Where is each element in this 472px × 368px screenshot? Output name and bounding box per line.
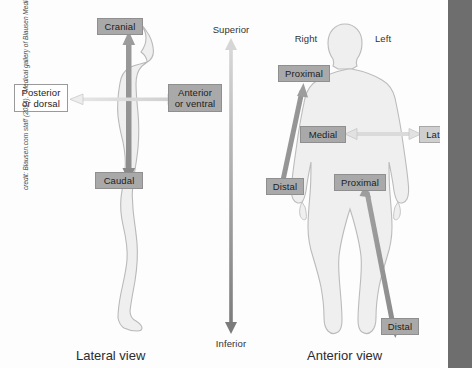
credit-text: credit: Blausen.com staff (2014). "Medic… [22,42,30,190]
anatomy-artwork [0,0,472,368]
posterior-anterior-arrow [70,94,181,105]
medial-lateral-arrow [345,129,421,140]
label-superior: Superior [204,22,258,37]
leg-proximal-distal-arrow [360,184,401,338]
label-right-side: Right [289,31,323,46]
caption-lateral-view: Lateral view [76,348,145,363]
scroll-rail[interactable] [448,0,472,368]
label-proximal-arm: Proximal [278,65,330,82]
label-cranial: Cranial [97,18,143,35]
label-distal-leg: Distal [381,318,419,335]
label-proximal-leg: Proximal [334,174,386,191]
label-caudal: Caudal [95,172,143,189]
label-inferior: Inferior [207,336,255,351]
label-anterior-or-ventral: Anterior or ventral [168,84,222,112]
label-left-side: Left [369,31,397,46]
cranial-caudal-arrow [123,31,136,182]
label-medial: Medial [300,126,346,143]
caption-anterior-view: Anterior view [307,348,382,363]
label-anterior-line2: or ventral [173,98,217,109]
label-anterior-line1: Anterior [173,87,217,98]
figure-canvas: Cranial Caudal Posterior or dorsal Anter… [0,0,472,368]
label-distal-arm: Distal [266,178,304,195]
rail-gap [440,0,448,368]
superior-inferior-axis-arrow [225,38,237,334]
